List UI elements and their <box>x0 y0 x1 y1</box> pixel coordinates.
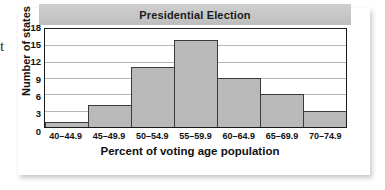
page-title: Presidential Election <box>139 9 250 21</box>
x-tick-label: 65–69.9 <box>260 130 303 143</box>
cropped-page-text-fragment: t <box>0 38 8 54</box>
y-tick-label: 15 <box>22 40 41 49</box>
y-tick-label: 6 <box>22 92 41 101</box>
histogram-bar <box>131 67 175 127</box>
plot-area <box>44 28 347 128</box>
x-tick-label: 60–64.9 <box>217 130 260 143</box>
x-tick-label: 70–74.9 <box>304 130 347 143</box>
histogram-bar <box>303 111 347 127</box>
y-tick-label: 9 <box>22 75 41 84</box>
histogram-bar <box>174 40 218 127</box>
y-tick-label: 12 <box>22 57 41 66</box>
histogram-bar <box>260 94 304 127</box>
chart-title-band: Presidential Election <box>39 4 351 25</box>
histogram-bar <box>88 105 132 127</box>
x-axis-title: Percent of voting age population <box>30 145 350 157</box>
y-tick-label: 18 <box>22 23 41 32</box>
x-axis-tick-labels: 40–44.945–49.950–54.955–59.960–64.965–69… <box>44 130 347 143</box>
y-axis-tick-labels: 1815129630 <box>22 27 41 131</box>
histogram-bar <box>217 78 261 127</box>
x-tick-label: 50–54.9 <box>131 130 174 143</box>
histogram-bar <box>45 122 89 127</box>
y-tick-label: 3 <box>22 109 41 118</box>
x-tick-label: 55–59.9 <box>174 130 217 143</box>
x-tick-label: 40–44.9 <box>44 130 87 143</box>
x-tick-label: 45–49.9 <box>87 130 130 143</box>
histogram-bars <box>45 29 346 127</box>
y-tick-label: 0 <box>22 127 41 136</box>
